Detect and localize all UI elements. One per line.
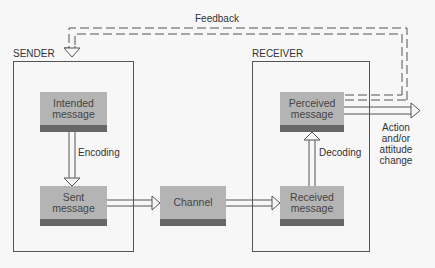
received-message-node: Received message bbox=[280, 186, 344, 226]
receiver-label: RECEIVER bbox=[252, 48, 303, 59]
encoding-label: Encoding bbox=[78, 147, 120, 158]
feedback-label: Feedback bbox=[195, 13, 239, 24]
channel-node: Channel bbox=[160, 186, 226, 226]
perceived-message-node: Perceived message bbox=[280, 92, 344, 132]
sent-message-node: Sent message bbox=[40, 186, 107, 226]
intended-message-node: Intended message bbox=[40, 92, 107, 132]
output-label: Action and/or attitude change bbox=[374, 122, 418, 166]
decoding-label: Decoding bbox=[319, 147, 361, 158]
sender-label: SENDER bbox=[13, 48, 55, 59]
